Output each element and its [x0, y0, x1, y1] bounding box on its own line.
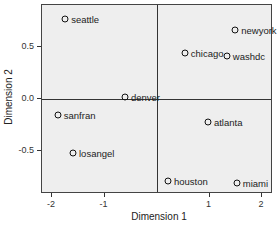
- y-tick-label: 0.5: [0, 41, 34, 51]
- data-point-seattle: [62, 15, 69, 22]
- x-axis-label-text: Dimension 1: [44, 211, 275, 222]
- y-axis-label: Dimension 2: [3, 92, 14, 104]
- data-point-atlanta: [204, 118, 211, 125]
- point-label: seattle: [71, 13, 99, 24]
- point-label: losangel: [79, 148, 114, 159]
- x-tick-label: 2: [258, 199, 263, 209]
- data-point-denver: [121, 93, 128, 100]
- point-label: newyork: [241, 25, 276, 36]
- x-tick: [261, 193, 262, 197]
- x-axis-label: Dimension 1: [0, 211, 277, 222]
- x-tick-label: 1: [206, 199, 211, 209]
- point-label: washdc: [233, 51, 265, 62]
- data-point-houston: [165, 178, 172, 185]
- y-axis-label-text: Dimension 2: [3, 62, 14, 132]
- plot-area: seattlenewyorkchicagowashdcdenversanfran…: [41, 4, 272, 193]
- data-point-chicago: [181, 50, 188, 57]
- point-label: miami: [243, 178, 268, 189]
- point-label: houston: [174, 176, 208, 187]
- data-point-washdc: [223, 53, 230, 60]
- point-label: denver: [131, 91, 160, 102]
- y-tick: [37, 46, 41, 47]
- y-tick-label: -0.5: [0, 145, 34, 155]
- x-tick-label: -1: [99, 199, 107, 209]
- point-label: sanfran: [64, 109, 96, 120]
- data-point-miami: [233, 180, 240, 187]
- y-tick: [37, 150, 41, 151]
- data-point-losangel: [70, 150, 77, 157]
- x-tick: [104, 193, 105, 197]
- x-tick-label: -2: [47, 199, 55, 209]
- y-tick: [37, 98, 41, 99]
- x-tick: [51, 193, 52, 197]
- data-point-newyork: [232, 27, 239, 34]
- x-tick: [209, 193, 210, 197]
- point-label: atlanta: [214, 116, 243, 127]
- data-point-sanfran: [54, 111, 61, 118]
- point-label: chicago: [191, 48, 224, 59]
